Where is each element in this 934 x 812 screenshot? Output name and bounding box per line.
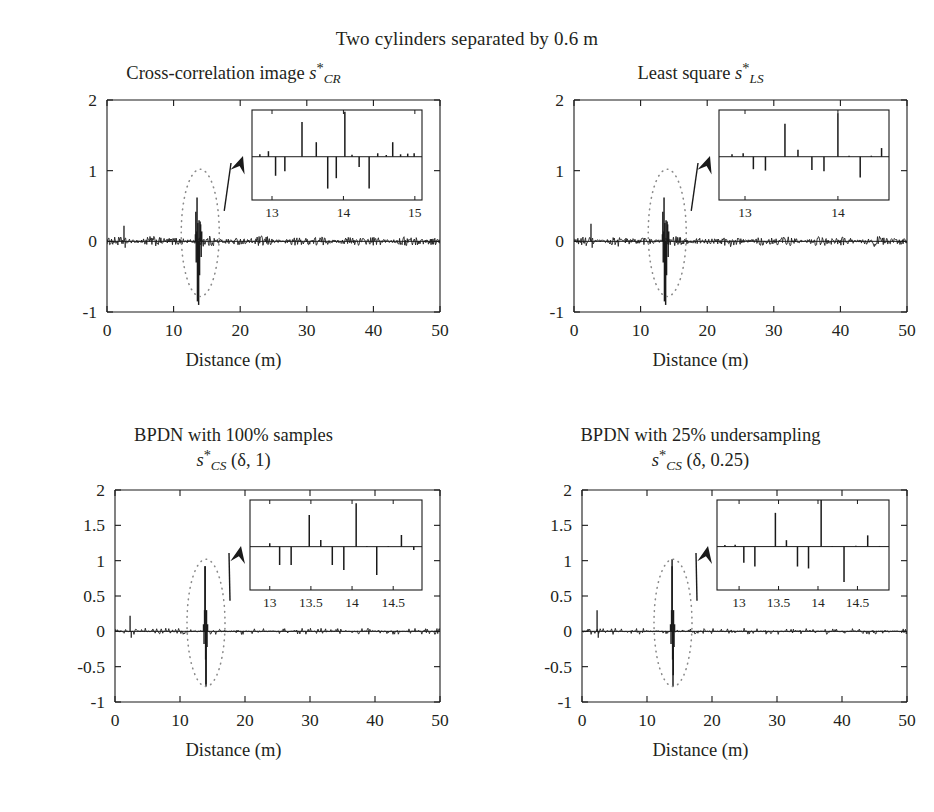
inset-x-tick-label: 14	[337, 205, 351, 220]
panel-bpdn-25: BPDN with 25% undersampling s*CS (δ, 0.2…	[467, 425, 934, 805]
x-tick-label: 40	[366, 710, 384, 730]
y-tick-label: -0.5	[77, 657, 105, 677]
y-tick-label: 1.5	[550, 515, 572, 535]
inset-x-tick-label: 15	[408, 205, 422, 220]
panel-title-text: BPDN with 25% undersampling	[581, 425, 821, 445]
panel-title-symbol: s*LS	[730, 63, 763, 83]
y-tick-label: 0.5	[550, 586, 572, 606]
x-tick-label: 20	[236, 710, 254, 730]
xaxis-label-bpdn-100: Distance (m)	[0, 740, 467, 761]
inset-pointer-arrow	[691, 156, 711, 211]
inset-axes: 1313.51414.5	[250, 500, 422, 610]
inset-x-tick-label: 13	[263, 595, 277, 610]
x-tick-label: 0	[111, 710, 120, 730]
panel-title-symbol: s*CS (δ, 1)	[0, 447, 467, 474]
y-tick-label: -1	[90, 692, 105, 712]
panel-title-text: Cross-correlation image	[126, 63, 304, 83]
x-tick-label: 10	[165, 320, 183, 340]
inset-pointer-arrow	[696, 546, 712, 601]
panel-title-text: Least square	[637, 63, 730, 83]
inset-axes: 131415	[252, 110, 422, 220]
x-tick-label: 0	[570, 320, 579, 340]
x-tick-label: 0	[103, 320, 112, 340]
x-tick-label: 30	[301, 710, 319, 730]
inset-x-tick-label: 13.5	[767, 595, 791, 610]
y-tick-label: 0.5	[83, 586, 105, 606]
xaxis-label-bpdn-25: Distance (m)	[467, 740, 934, 761]
chart-svg-bpdn-25: 01020304050-1-0.500.511.521313.51414.5	[467, 480, 934, 742]
x-tick-label: 20	[698, 320, 716, 340]
chart-svg-least-square: 01020304050-10121314	[467, 90, 934, 352]
inset-x-tick-label: 13	[738, 205, 752, 220]
x-tick-label: 20	[231, 320, 249, 340]
inset-axes: 1314	[719, 110, 889, 220]
x-tick-label: 50	[431, 320, 449, 340]
chart-svg-cross-correlation: 01020304050-1012131415	[0, 90, 467, 352]
inset-x-tick-label: 14	[345, 595, 359, 610]
xaxis-label-least-square: Distance (m)	[467, 350, 934, 371]
x-tick-label: 10	[171, 710, 189, 730]
inset-x-tick-label: 14.5	[381, 595, 405, 610]
y-tick-label: -1	[549, 302, 564, 322]
figure-suptitle: Two cylinders separated by 0.6 m	[0, 28, 934, 50]
y-tick-label: 0	[563, 621, 572, 641]
y-tick-label: 0	[96, 621, 105, 641]
panel-title-cross-correlation: Cross-correlation image s*CR	[0, 60, 467, 87]
inset-x-tick-label: 13	[732, 595, 746, 610]
panel-title-text: BPDN with 100% samples	[134, 425, 333, 445]
x-tick-label: 50	[898, 320, 916, 340]
inset-x-tick-label: 14	[831, 205, 845, 220]
x-tick-label: 10	[638, 710, 656, 730]
y-tick-label: 1	[555, 161, 564, 181]
x-tick-label: 0	[578, 710, 587, 730]
x-tick-label: 20	[703, 710, 721, 730]
inset-axes: 1313.51414.5	[717, 500, 889, 610]
panel-title-symbol: s*CS (δ, 0.25)	[467, 447, 934, 474]
x-tick-label: 40	[832, 320, 850, 340]
panel-title-symbol: s*CR	[305, 63, 341, 83]
plot-area-bpdn-100: 01020304050-1-0.500.511.521313.51414.5	[0, 480, 467, 742]
inset-pointer-arrow	[229, 546, 245, 601]
x-tick-label: 30	[768, 710, 786, 730]
y-tick-label: 1	[563, 551, 572, 571]
figure-root: Two cylinders separated by 0.6 m Cross-c…	[0, 0, 934, 812]
y-tick-label: 1	[96, 551, 105, 571]
panel-least-square: Least square s*LS 01020304050-10121314 D…	[467, 60, 934, 415]
panel-title-least-square: Least square s*LS	[467, 60, 934, 87]
x-tick-label: 50	[898, 710, 916, 730]
panel-cross-correlation: Cross-correlation image s*CR 01020304050…	[0, 60, 467, 415]
x-tick-label: 50	[431, 710, 449, 730]
chart-svg-bpdn-100: 01020304050-1-0.500.511.521313.51414.5	[0, 480, 467, 742]
inset-x-tick-label: 13.5	[299, 595, 323, 610]
inset-x-tick-label: 14.5	[846, 595, 870, 610]
inset-pointer-arrow	[224, 156, 244, 211]
x-tick-label: 40	[833, 710, 851, 730]
x-tick-label: 30	[765, 320, 783, 340]
xaxis-label-cross-correlation: Distance (m)	[0, 350, 467, 371]
panel-title-bpdn-100: BPDN with 100% samples s*CS (δ, 1)	[0, 425, 467, 474]
y-tick-label: -0.5	[544, 657, 572, 677]
x-tick-label: 30	[298, 320, 316, 340]
y-tick-label: 2	[563, 480, 572, 500]
y-tick-label: 1.5	[83, 515, 105, 535]
x-tick-label: 10	[632, 320, 650, 340]
plot-area-cross-correlation: 01020304050-1012131415	[0, 90, 467, 352]
x-tick-label: 40	[365, 320, 383, 340]
y-tick-label: -1	[557, 692, 572, 712]
panel-title-bpdn-25: BPDN with 25% undersampling s*CS (δ, 0.2…	[467, 425, 934, 474]
y-tick-label: 2	[555, 90, 564, 110]
y-tick-label: 0	[88, 231, 97, 251]
y-tick-label: 2	[96, 480, 105, 500]
y-tick-label: 2	[88, 90, 97, 110]
inset-x-tick-label: 14	[811, 595, 825, 610]
plot-area-least-square: 01020304050-10121314	[467, 90, 934, 352]
inset-x-tick-label: 13	[265, 205, 279, 220]
y-tick-label: 1	[88, 161, 97, 181]
panel-bpdn-100: BPDN with 100% samples s*CS (δ, 1) 01020…	[0, 425, 467, 805]
plot-area-bpdn-25: 01020304050-1-0.500.511.521313.51414.5	[467, 480, 934, 742]
y-tick-label: -1	[82, 302, 97, 322]
y-tick-label: 0	[555, 231, 564, 251]
